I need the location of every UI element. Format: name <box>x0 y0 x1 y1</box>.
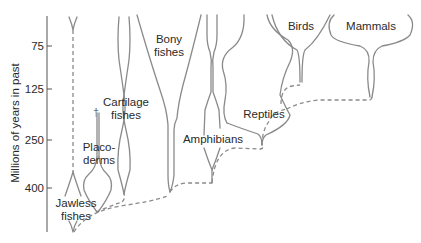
label-mammals: Mammals <box>346 20 396 32</box>
extinction-dagger-icon: † <box>93 107 99 118</box>
label-bony-fishes-line1: Bony <box>156 33 182 45</box>
tick-label: 75 <box>31 40 44 52</box>
label-placoderms-line2: derms <box>83 154 115 166</box>
label-jawless-fishes-line1: Jawless <box>56 197 97 209</box>
tick-label: 125 <box>25 83 44 95</box>
label-placoderms-line1: Placo- <box>83 141 116 153</box>
vertebrate-evolution-diagram: 75 125 250 400 Millions of years in past… <box>0 0 421 243</box>
label-jawless-fishes-line2: fishes <box>61 210 91 222</box>
axis-title: Millions of years in past <box>9 62 21 182</box>
label-reptiles: Reptiles <box>243 108 285 120</box>
tick-label: 250 <box>25 134 44 146</box>
tick-label: 400 <box>25 182 44 194</box>
time-axis: 75 125 250 400 Millions of years in past <box>9 16 52 232</box>
label-cartilage-fishes-line2: fishes <box>111 109 141 121</box>
label-cartilage-fishes-line1: Cartilage <box>103 96 149 108</box>
label-amphibians: Amphibians <box>183 133 243 145</box>
branch-reptiles <box>222 15 292 145</box>
label-bony-fishes-line2: fishes <box>154 46 184 58</box>
label-birds: Birds <box>288 20 314 32</box>
branch-amphibians <box>204 15 220 183</box>
